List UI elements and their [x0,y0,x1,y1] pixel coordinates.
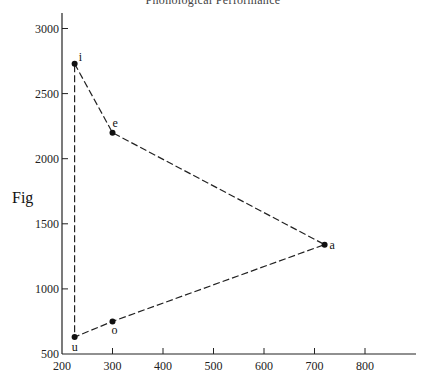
data-point-a [322,242,328,248]
axes [62,13,416,354]
data-point-i [72,61,78,67]
x-tick-label: 300 [104,359,122,373]
y-tick-label: 2500 [35,87,59,101]
vowel-triangle-path [75,64,325,337]
x-tick-label: 500 [205,359,223,373]
x-tick-label: 400 [154,359,172,373]
y-tick-label: 1000 [35,282,59,296]
axis-ticks: 5001000150020002500300020030040050060070… [35,22,374,374]
y-tick-label: 2000 [35,152,59,166]
vowel-formant-chart: 5001000150020002500300020030040050060070… [0,0,426,381]
data-point-e [110,130,116,136]
x-tick-label: 200 [53,359,71,373]
y-tick-label: 3000 [35,22,59,36]
point-label-u: u [72,340,78,354]
point-label-o: o [112,323,118,337]
x-tick-label: 800 [356,359,374,373]
y-tick-label: 1500 [35,217,59,231]
point-label-e: e [113,116,118,130]
vowel-connector-lines [75,64,325,337]
x-tick-label: 600 [255,359,273,373]
vowel-points: ieaou [72,50,336,354]
point-label-a: a [330,238,336,252]
x-tick-label: 700 [306,359,324,373]
point-label-i: i [79,50,83,64]
